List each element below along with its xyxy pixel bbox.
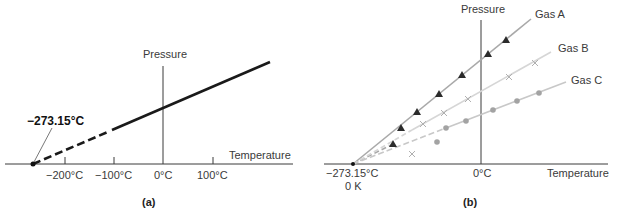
gas-b-markers (409, 60, 538, 157)
origin-label-b: −273.15°C (326, 167, 378, 179)
temperature-label-b: Temperature (547, 167, 609, 179)
circle-marker (536, 90, 542, 96)
circle-marker (463, 118, 469, 124)
tick-label-100: 100°C (197, 169, 228, 181)
caption-b: (b) (463, 196, 477, 208)
annotation-label: −273.15°C (27, 114, 85, 128)
gas-c-label: Gas C (571, 74, 602, 86)
gas-c-extrapolated (353, 128, 446, 164)
caption-a: (a) (142, 196, 156, 208)
gas-b-extrapolated (353, 130, 412, 164)
triangle-marker (389, 140, 397, 147)
measured-line-a (112, 62, 270, 130)
cross-marker (409, 151, 415, 157)
cross-marker (420, 121, 426, 127)
extrapolated-line-a (33, 131, 110, 164)
absolute-zero-dot-b (351, 162, 355, 166)
gas-a-markers (389, 36, 510, 147)
circle-marker (434, 139, 440, 145)
zero-label-b: 0°C (473, 167, 492, 179)
circle-marker (443, 125, 449, 131)
gas-c-markers (434, 90, 542, 145)
figure: −273.15°C Pressure Temperature −200°C −1… (0, 0, 617, 218)
temperature-label-a: Temperature (229, 149, 291, 161)
zero-point-dot-a (31, 162, 36, 167)
panel-b: Pressure Gas A Gas B Gas C −273.15°C 0 K… (324, 3, 609, 208)
pressure-label-b: Pressure (461, 3, 505, 15)
gas-a-label: Gas A (535, 8, 566, 20)
circle-marker (490, 107, 496, 113)
panel-a: −273.15°C Pressure Temperature −200°C −1… (5, 48, 293, 208)
tick-label-minus100: −100°C (95, 169, 132, 181)
circle-marker (514, 98, 520, 104)
pressure-label-a: Pressure (143, 48, 187, 60)
tick-label-minus200: −200°C (46, 169, 83, 181)
gas-b-label: Gas B (558, 42, 589, 54)
origin-sublabel-b: 0 K (345, 180, 362, 192)
tick-label-0: 0°C (154, 169, 173, 181)
